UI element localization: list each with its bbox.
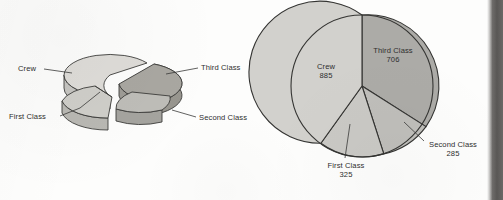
right-callout-second-class: Second Class 285 bbox=[425, 140, 481, 159]
right-inline-third-class: Third Class 706 bbox=[364, 46, 422, 65]
exploded-3d-pie-graphic bbox=[44, 54, 198, 130]
figure-canvas: Crew Third Class First Class Second Clas… bbox=[0, 0, 503, 200]
right-inline-crew: Crew 885 bbox=[305, 62, 347, 81]
left-callout-crew: Crew bbox=[18, 64, 36, 73]
right-inline-crew-value: 885 bbox=[305, 71, 347, 80]
charts-artwork bbox=[0, 0, 503, 200]
left-callout-third-class: Third Class bbox=[201, 63, 241, 72]
right-inline-crew-label: Crew bbox=[317, 62, 335, 71]
right-inline-third-class-label: Third Class bbox=[373, 46, 413, 55]
right-callout-second-class-label: Second Class bbox=[429, 140, 477, 149]
page-edge-shadow bbox=[487, 0, 503, 200]
right-callout-first-class: First Class 325 bbox=[322, 161, 370, 180]
left-callout-first-class: First Class bbox=[9, 112, 46, 121]
right-callout-first-class-label: First Class bbox=[328, 161, 365, 170]
right-inline-third-class-value: 706 bbox=[364, 55, 422, 64]
left-callout-second-class: Second Class bbox=[199, 113, 247, 122]
right-callout-second-class-value: 285 bbox=[425, 149, 481, 158]
pie3d-slice-second-class bbox=[116, 92, 170, 124]
leader-second-class bbox=[172, 110, 196, 117]
right-callout-first-class-value: 325 bbox=[322, 170, 370, 179]
